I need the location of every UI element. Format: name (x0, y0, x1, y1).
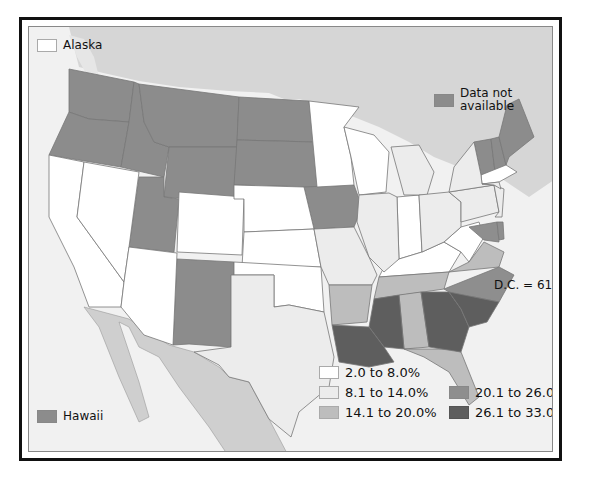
dc-annotation: D.C. = 61.1% (494, 279, 553, 292)
legend-label-4: 20.1 to 26.0% (475, 385, 553, 400)
legend-swatch-4 (449, 386, 469, 399)
legend-swatch-5 (449, 406, 469, 419)
legend-na: Data not available (434, 87, 514, 113)
alaska-swatch (37, 39, 57, 52)
legend-na-text: Data not available (460, 87, 514, 113)
legend-swatch-3 (319, 406, 339, 419)
hawaii-inset: Hawaii (37, 410, 103, 423)
hawaii-swatch (37, 410, 57, 423)
hawaii-label: Hawaii (63, 410, 103, 423)
state-NE[interactable] (234, 185, 314, 232)
legend-label-2: 8.1 to 14.0% (345, 385, 428, 400)
state-MT[interactable] (139, 84, 239, 147)
alaska-label: Alaska (63, 38, 102, 52)
map-frame: Alaska Hawaii Data not available D.C. = … (19, 17, 562, 461)
map-area: Alaska Hawaii Data not available D.C. = … (28, 26, 553, 452)
legend-bin-3: 14.1 to 20.0% (319, 405, 437, 420)
alaska-inset: Alaska (37, 39, 102, 52)
legend-bin-1: 2.0 to 8.0% (319, 365, 420, 380)
legend-label-3: 14.1 to 20.0% (345, 405, 437, 420)
legend-bin-2: 8.1 to 14.0% (319, 385, 428, 400)
state-IN[interactable] (397, 195, 422, 259)
legend-swatch-1 (319, 366, 339, 379)
state-AZ[interactable] (121, 247, 177, 345)
state-AR[interactable] (329, 285, 372, 325)
legend-bin-5: 26.1 to 33.0% (449, 405, 553, 420)
legend-label-5: 26.1 to 33.0% (475, 405, 553, 420)
legend-na-swatch (434, 94, 454, 107)
legend-swatch-2 (319, 386, 339, 399)
state-CO[interactable] (177, 192, 244, 255)
state-SD[interactable] (234, 140, 317, 187)
state-ND[interactable] (237, 97, 314, 142)
legend-label-1: 2.0 to 8.0% (345, 365, 420, 380)
legend-bin-4: 20.1 to 26.0% (449, 385, 553, 400)
state-KS[interactable] (242, 229, 321, 267)
state-NM[interactable] (173, 259, 234, 347)
legend-na-line2: available (460, 100, 514, 113)
